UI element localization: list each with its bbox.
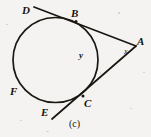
geometry-figure: D B A F E C x y (c) (0, 0, 151, 137)
tangency-mark-b (75, 20, 78, 23)
label-point-b: B (71, 8, 78, 19)
tangent-line-dba (34, 7, 136, 46)
figure-caption: (c) (69, 119, 80, 129)
label-point-a: A (137, 36, 144, 47)
tangent-line-eca (52, 46, 136, 119)
label-point-c: C (84, 98, 91, 109)
label-point-e: E (41, 107, 48, 118)
label-angle-x: x (124, 48, 128, 56)
label-point-d: D (22, 5, 30, 16)
label-arc-y: y (79, 51, 83, 60)
figure-canvas (0, 0, 151, 137)
label-point-f: F (10, 86, 17, 97)
